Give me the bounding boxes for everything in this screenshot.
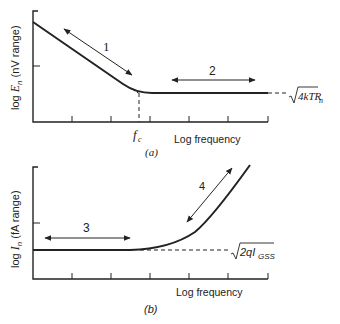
region-4-label: 4: [199, 180, 205, 192]
panel-b-y-axis-label: log In (fA range): [8, 190, 24, 268]
noise-spectrum-figure: 1 2 4kTR n log En (nV range) f c Log fre…: [0, 0, 340, 324]
panel-a-y-axis-label: log En (nV range): [8, 25, 24, 110]
region-1-arrow: [64, 29, 132, 75]
svg-text:4kTR: 4kTR: [298, 90, 322, 102]
svg-text:n: n: [319, 96, 323, 105]
svg-text:c: c: [138, 135, 142, 144]
panel-a-axes: [33, 11, 268, 122]
panel-b-current-noise: 3 4 2qI GSS log In (fA range) Log freque…: [8, 165, 276, 315]
shot-noise-asymptote-label: 2qI GSS: [231, 243, 276, 261]
corner-frequency-label: f c: [133, 127, 142, 144]
panel-b-x-axis-label: Log frequency: [176, 286, 243, 298]
current-noise-curve: [33, 165, 250, 250]
panel-b-caption: (b): [144, 303, 158, 315]
voltage-noise-curve: [33, 22, 268, 93]
svg-text:GSS: GSS: [258, 252, 276, 261]
region-3-label: 3: [83, 221, 90, 235]
panel-a-caption: (a): [145, 146, 158, 159]
panel-a-x-axis-label: Log frequency: [174, 133, 241, 145]
region-2-label: 2: [209, 64, 216, 78]
region-1-label: 1: [103, 39, 110, 54]
panel-a-x-ticks: [72, 116, 268, 122]
thermal-noise-asymptote-label: 4kTR n: [289, 87, 323, 105]
panel-b-axes: [33, 167, 268, 279]
panel-a-voltage-noise: 1 2 4kTR n log En (nV range) f c Log fre…: [8, 11, 323, 159]
panel-b-x-ticks: [72, 273, 268, 279]
svg-text:2qI: 2qI: [239, 246, 255, 258]
region-4-arrow: [187, 168, 232, 222]
